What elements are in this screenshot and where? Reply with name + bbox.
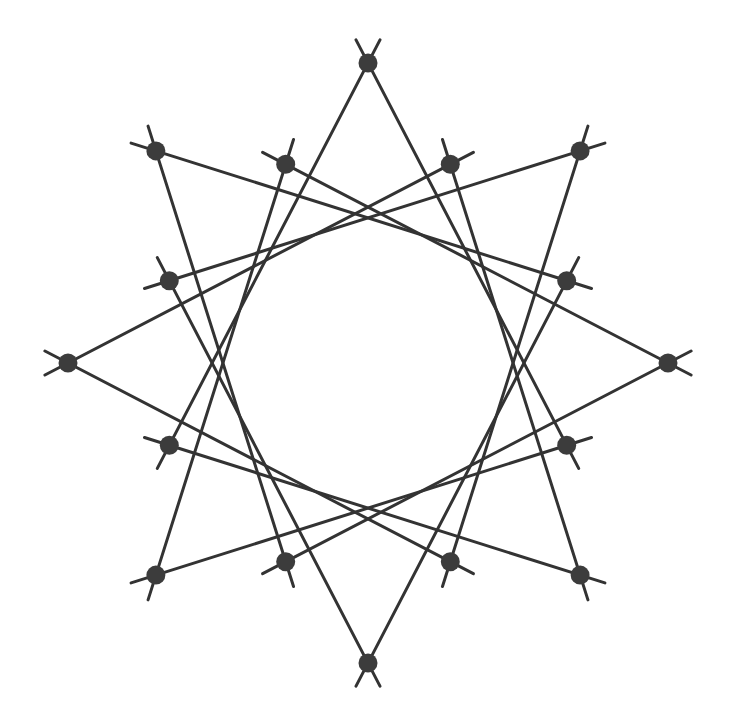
- star-polygon-canvas: [0, 0, 733, 727]
- outer-vertex-node: [571, 566, 590, 585]
- inner-vertex-node: [441, 552, 460, 571]
- outer-vertex-node: [571, 141, 590, 160]
- inner-vertex-node: [276, 552, 295, 571]
- outer-vertex-node: [146, 566, 165, 585]
- inner-vertex-node: [557, 271, 576, 290]
- inner-vertex-node: [557, 436, 576, 455]
- outer-vertex-node: [146, 141, 165, 160]
- inner-vertex-node: [160, 436, 179, 455]
- figure-background: [0, 0, 733, 727]
- inner-vertex-node: [441, 155, 460, 174]
- outer-vertex-node: [359, 654, 378, 673]
- inner-vertex-node: [276, 155, 295, 174]
- outer-vertex-node: [359, 54, 378, 73]
- outer-vertex-node: [59, 354, 78, 373]
- outer-vertex-node: [659, 354, 678, 373]
- star-polygon-figure: [0, 0, 733, 727]
- inner-vertex-node: [160, 271, 179, 290]
